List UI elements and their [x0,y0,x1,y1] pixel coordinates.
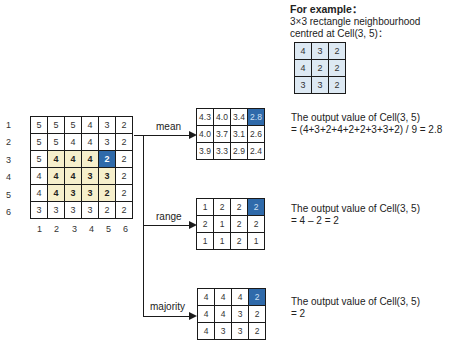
input-cell: 3 [99,117,116,134]
col-label: 2 [48,224,65,234]
input-cell-neighbourhood: 3 [82,185,99,202]
input-cell-neighbourhood: 4 [82,151,99,168]
example-cell: 3 [312,43,329,60]
output-cell: 2 [249,323,266,340]
input-cell: 3 [65,202,82,219]
input-cell: 5 [31,117,48,134]
mean-result-line1: The output value of Cell(3, 5) [291,112,420,124]
example-cell: 2 [329,60,346,77]
input-cell: 2 [116,117,133,134]
example-cell: 2 [329,77,346,94]
output-cell: 2 [249,306,266,323]
input-cell-neighbourhood: 3 [99,168,116,185]
col-label: 3 [66,224,83,234]
output-cell: 3 [215,323,232,340]
input-cell: 5 [31,151,48,168]
example-cell: 4 [295,43,312,60]
connector-line [143,316,192,317]
output-cell: 1 [214,216,231,233]
example-neighbourhood-grid: 4 3 2 4 2 2 3 3 2 [294,42,346,94]
input-cell: 5 [31,134,48,151]
output-cell: 3.7 [214,126,231,143]
output-cell: 2.4 [248,143,265,160]
connector-line [143,135,144,317]
input-cell-neighbourhood: 4 [65,151,82,168]
output-cell: 1 [197,199,214,216]
output-cell: 2 [231,216,248,233]
input-cell-neighbourhood: 3 [65,185,82,202]
mean-result-line2: = (4+3+2+4+2+2+3+3+2) / 9 = 2.8 [291,124,442,136]
row-label: 4 [0,172,17,182]
input-cell-neighbourhood: 4 [48,185,65,202]
input-cell: 2 [116,134,133,151]
input-cell-neighbourhood: 2 [99,185,116,202]
example-cell: 2 [329,43,346,60]
output-cell: 1 [248,233,265,250]
output-cell: 1 [214,233,231,250]
row-label: 3 [0,155,17,165]
example-title: For example： [290,3,362,15]
input-cell: 2 [99,202,116,219]
output-cell: 4.3 [197,109,214,126]
input-cell: 4 [82,117,99,134]
input-cell: 2 [116,185,133,202]
majority-output-grid: 4 4 4 2 4 4 3 2 4 3 3 2 [197,288,266,340]
row-label: 2 [0,137,17,147]
input-cell: 3 [48,202,65,219]
output-cell: 3 [232,323,249,340]
input-cell-neighbourhood: 4 [48,168,65,185]
input-grid: 5 5 5 4 3 2 5 5 4 4 3 2 5 4 4 4 2 2 4 4 … [30,116,133,219]
arrow-right-icon [189,312,197,320]
col-label: 6 [117,224,134,234]
output-cell-selected: 2 [248,199,265,216]
output-cell: 2.9 [231,143,248,160]
input-cell-selected: 2 [99,151,116,168]
example-cell: 3 [312,77,329,94]
output-cell: 2.6 [248,126,265,143]
example-description-line2: centred at Cell(3, 5)： [290,28,388,40]
input-cell: 3 [99,134,116,151]
col-label: 4 [83,224,100,234]
col-label: 5 [100,224,117,234]
output-cell: 4 [232,289,249,306]
output-cell: 4 [215,306,232,323]
output-cell-selected: 2.8 [248,109,265,126]
example-cell: 4 [295,60,312,77]
input-cell: 5 [48,134,65,151]
input-cell: 3 [82,202,99,219]
operation-label-mean: mean [156,121,181,132]
input-cell-neighbourhood: 4 [65,168,82,185]
input-cell: 2 [116,168,133,185]
operation-label-majority: majority [150,301,185,312]
output-cell: 2 [214,199,231,216]
output-cell: 3 [232,306,249,323]
row-label: 1 [0,120,17,130]
col-label: 1 [31,224,48,234]
mean-output-grid: 4.3 4.0 3.4 2.8 4.0 3.7 3.1 2.6 3.9 3.3 … [196,108,265,160]
range-result-line2: = 4 – 2 = 2 [291,215,339,227]
input-cell: 2 [116,202,133,219]
output-cell: 2 [197,216,214,233]
output-cell: 2 [231,233,248,250]
output-cell: 3.1 [231,126,248,143]
output-cell: 4.0 [214,109,231,126]
majority-result-line1: The output value of Cell(3, 5) [291,296,420,308]
input-cell: 5 [65,117,82,134]
range-result-line1: The output value of Cell(3, 5) [291,203,420,215]
input-cell: 3 [31,202,48,219]
output-cell: 3.4 [231,109,248,126]
input-cell-neighbourhood: 4 [48,151,65,168]
output-cell: 1 [197,233,214,250]
range-output-grid: 1 2 2 2 2 1 2 2 1 1 2 1 [196,198,265,250]
connector-line [143,225,192,226]
row-label: 5 [0,190,17,200]
input-cell: 5 [48,117,65,134]
input-cell: 4 [65,134,82,151]
example-cell: 3 [295,77,312,94]
output-cell-selected: 2 [249,289,266,306]
operation-label-range: range [156,211,182,222]
input-cell: 4 [31,185,48,202]
output-cell: 4 [198,306,215,323]
output-cell: 3.3 [214,143,231,160]
input-cell: 2 [116,151,133,168]
